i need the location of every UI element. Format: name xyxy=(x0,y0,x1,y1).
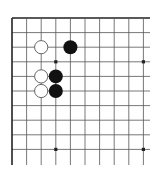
star-point xyxy=(142,148,145,151)
star-point xyxy=(54,60,57,63)
star-point xyxy=(142,60,145,63)
black-stone xyxy=(49,69,63,83)
white-stone xyxy=(35,70,48,83)
black-stone xyxy=(49,84,63,98)
white-stone xyxy=(35,41,48,54)
white-stone xyxy=(35,84,48,97)
black-stone xyxy=(63,40,77,54)
star-point xyxy=(54,148,57,151)
board-grid xyxy=(12,18,150,165)
go-board[interactable] xyxy=(0,0,164,177)
